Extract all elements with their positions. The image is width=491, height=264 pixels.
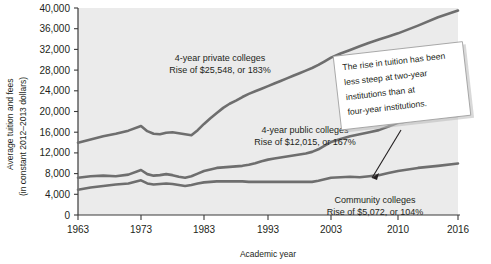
y-tick-label: 4,000: [45, 189, 70, 200]
x-tick-label: 2016: [447, 224, 470, 235]
y-tick-label: 12,000: [39, 147, 70, 158]
private-label-line2: Rise of $25,548, or 183%: [169, 65, 271, 75]
tuition-trend-figure: 04,0008,00012,00016,00020,00024,00028,00…: [0, 0, 491, 264]
x-axis-title: Academic year: [240, 249, 296, 259]
y-tick-label: 32,000: [39, 44, 70, 55]
y-tick-label: 8,000: [45, 168, 70, 179]
callout-note: The rise in tuition has been less steep …: [333, 41, 474, 133]
y-tick-label: 36,000: [39, 23, 70, 34]
community-label-line1: Community colleges: [334, 195, 416, 205]
x-tick-label: 2010: [387, 224, 410, 235]
x-axis: 1963197319831993200320102016: [67, 215, 470, 235]
community-label-line2: Rise of $5,072, or 104%: [327, 207, 424, 217]
x-tick-label: 2003: [320, 224, 343, 235]
public-label-line2: Rise of $12,015, or 167%: [254, 137, 356, 147]
private-label-line1: 4-year private colleges: [175, 53, 266, 63]
y-tick-label: 40,000: [39, 3, 70, 14]
public-label-line1: 4-year public colleges: [261, 125, 349, 135]
y-axis-title-line1: Average tuition and fees: [5, 78, 15, 170]
y-tick-label: 16,000: [39, 127, 70, 138]
y-tick-label: 20,000: [39, 106, 70, 117]
y-tick-label: 28,000: [39, 65, 70, 76]
y-tick-label: 24,000: [39, 85, 70, 96]
x-tick-label: 1963: [67, 224, 90, 235]
x-tick-label: 1993: [257, 224, 280, 235]
x-tick-label: 1973: [130, 224, 153, 235]
y-axis: 04,0008,00012,00016,00020,00024,00028,00…: [39, 3, 78, 221]
x-tick-label: 1983: [193, 224, 216, 235]
line-chart: 04,0008,00012,00016,00020,00024,00028,00…: [0, 0, 491, 264]
y-axis-title-line2: (in constant 2012–2013 dollars): [18, 77, 28, 196]
y-tick-label: 0: [64, 210, 70, 221]
